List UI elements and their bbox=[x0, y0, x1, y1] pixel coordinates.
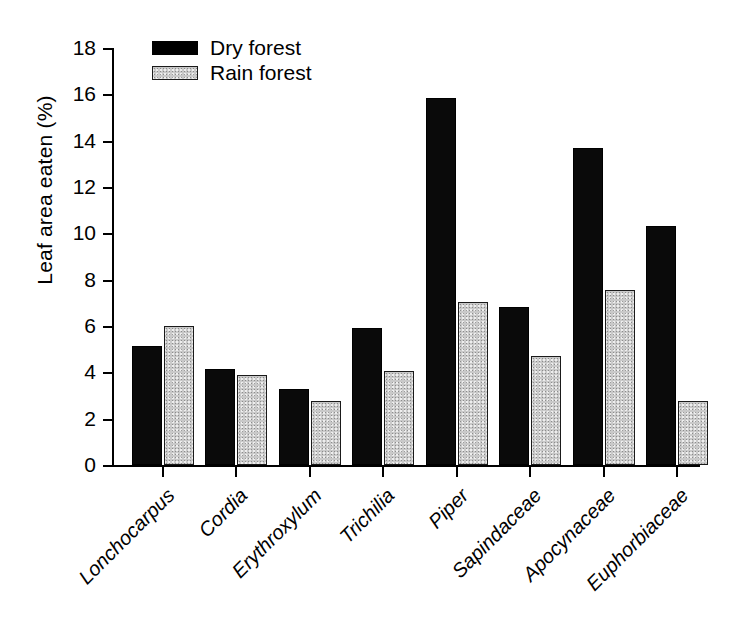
bar-chart-figure: Leaf area eaten (%) Dry forest Rain fore… bbox=[0, 0, 736, 617]
bar-dry-forest bbox=[352, 328, 382, 465]
bar-rain-forest bbox=[311, 401, 341, 465]
y-axis-tick-label: 4 bbox=[56, 360, 96, 384]
y-axis-tick-label: 16 bbox=[56, 82, 96, 106]
y-axis-tick bbox=[103, 233, 112, 235]
plot-area: 024681012141618 LonchocarpusCordiaErythr… bbox=[112, 48, 700, 466]
bar-rain-forest bbox=[531, 356, 561, 465]
x-axis-tick bbox=[382, 467, 384, 477]
y-axis-tick bbox=[103, 94, 112, 96]
y-axis-tick bbox=[103, 465, 112, 467]
bar-dry-forest bbox=[279, 389, 309, 465]
bar-rain-forest bbox=[237, 375, 267, 465]
bar-dry-forest bbox=[646, 226, 676, 465]
bar-dry-forest bbox=[499, 307, 529, 465]
bar-rain-forest bbox=[164, 326, 194, 465]
x-axis-tick bbox=[603, 467, 605, 477]
x-axis-tick bbox=[235, 467, 237, 477]
bar-rain-forest bbox=[384, 371, 414, 465]
bar-dry-forest bbox=[573, 148, 603, 465]
y-axis-tick-label: 14 bbox=[56, 129, 96, 153]
x-axis-tick bbox=[456, 467, 458, 477]
y-axis-tick-label: 8 bbox=[56, 268, 96, 292]
y-axis-tick bbox=[103, 280, 112, 282]
y-axis-tick-label: 2 bbox=[56, 407, 96, 431]
bar-dry-forest bbox=[132, 346, 162, 465]
y-axis-tick-label: 10 bbox=[56, 221, 96, 245]
bar-dry-forest bbox=[426, 98, 456, 465]
x-axis-tick bbox=[529, 467, 531, 477]
y-axis-tick-label: 18 bbox=[56, 36, 96, 60]
y-axis-tick bbox=[103, 48, 112, 50]
y-axis-tick bbox=[103, 419, 112, 421]
y-axis-tick bbox=[103, 141, 112, 143]
x-axis-tick bbox=[162, 467, 164, 477]
y-axis-tick-label: 0 bbox=[56, 453, 96, 477]
x-axis-tick bbox=[676, 467, 678, 477]
bar-rain-forest bbox=[458, 302, 488, 465]
bar-dry-forest bbox=[205, 369, 235, 465]
y-axis-label: Leaf area eaten (%) bbox=[30, 0, 60, 400]
y-axis-tick bbox=[103, 187, 112, 189]
y-axis-tick bbox=[103, 372, 112, 374]
y-axis-tick-label: 12 bbox=[56, 175, 96, 199]
bar-rain-forest bbox=[605, 290, 635, 465]
y-axis-line bbox=[112, 48, 114, 467]
y-axis-tick bbox=[103, 326, 112, 328]
y-axis-tick-label: 6 bbox=[56, 314, 96, 338]
x-axis-tick bbox=[309, 467, 311, 477]
bar-rain-forest bbox=[678, 401, 708, 465]
x-axis-line bbox=[112, 465, 700, 467]
